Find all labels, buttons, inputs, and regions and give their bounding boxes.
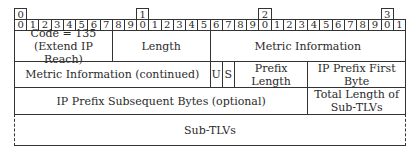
- field-metric: Metric Information: [210, 30, 407, 62]
- field-length: Length: [112, 30, 211, 62]
- field-prefix-subseq: IP Prefix Subsequent Bytes (optional): [14, 87, 308, 115]
- field-total-len: Total Length ofSub-TLVs: [307, 87, 406, 115]
- field-code: Code = 135(Extend IP Reach): [14, 30, 113, 62]
- field-metric-cont: Metric Information (continued): [14, 61, 211, 88]
- field-prefix-first: IP Prefix First Byte: [307, 61, 406, 88]
- field-prefix-length: Prefix Length: [234, 61, 308, 88]
- field-sub-tlvs: Sub-TLVs: [14, 114, 406, 146]
